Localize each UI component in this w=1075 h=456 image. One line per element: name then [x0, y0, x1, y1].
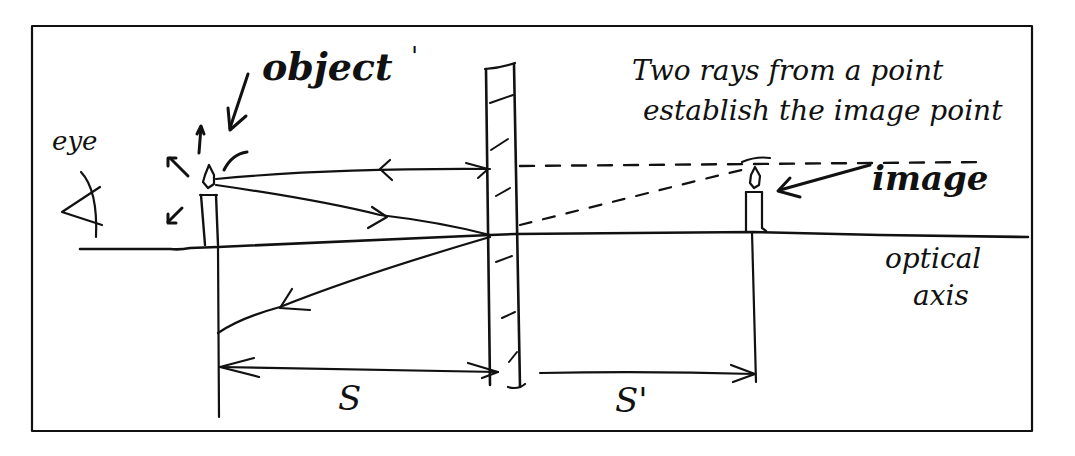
- image-pointer-arrow-icon: [778, 165, 870, 197]
- mirror-hatching: [490, 95, 517, 362]
- ray-reflected: [218, 237, 490, 333]
- candle-icon: [200, 165, 218, 245]
- optical-axis-label-1: optical: [885, 242, 981, 275]
- image-candle-icon: [742, 158, 770, 232]
- object-label-mark: ': [411, 41, 418, 71]
- object-label: object: [262, 44, 393, 89]
- optics-diagram: eye object ': [0, 0, 1075, 456]
- image-label: image: [872, 158, 988, 198]
- light-emission-arrows-icon: [168, 126, 247, 223]
- eye-label: eye: [52, 126, 97, 156]
- image-reference-line: [752, 232, 756, 382]
- object-distance-arrow: [220, 358, 498, 378]
- image-distance-label: S': [615, 380, 648, 420]
- note-line-1: Two rays from a point: [632, 54, 944, 87]
- ray-parallel: [216, 160, 490, 180]
- virtual-ray-diagonal: [520, 168, 750, 225]
- plane-mirror: [485, 63, 525, 388]
- object-distance-label: S: [338, 378, 361, 418]
- object-pointer-arrow-icon: [228, 74, 248, 130]
- optical-axis-label-2: axis: [913, 279, 969, 312]
- object-reference-line: [218, 247, 219, 417]
- ray-incident-center: [216, 185, 490, 235]
- eye-icon: [62, 172, 102, 237]
- note-line-2: establish the image point: [643, 94, 1003, 127]
